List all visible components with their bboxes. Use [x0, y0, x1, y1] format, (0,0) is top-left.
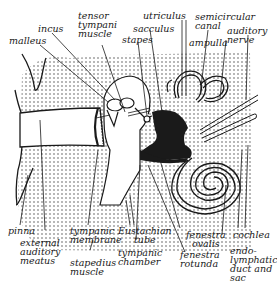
label-cochlea: cochlea	[233, 230, 270, 239]
label-fenestra-rotunda: fenestra rotunda	[180, 250, 220, 268]
label-sacculus: sacculus	[133, 24, 174, 33]
label-auditory-nerve: auditory nerve	[227, 26, 267, 44]
label-tympanic-chamber: tympanic chamber	[118, 248, 162, 266]
label-pinna: pinna	[8, 226, 35, 235]
label-external-auditory-meatus: external auditory meatus	[20, 238, 60, 265]
label-ampulla: ampulla	[189, 38, 228, 47]
label-stapedius-muscle: stapedius muscle	[70, 258, 116, 276]
ear-canal	[20, 108, 104, 147]
label-utriculus: utriculus	[143, 11, 186, 20]
label-incus: incus	[38, 24, 63, 33]
label-stapes: stapes	[122, 35, 153, 44]
label-tensor-tympani-muscle: tensor tympani muscle	[78, 11, 117, 38]
label-tympanic-membrane: tympanic membrane	[70, 226, 122, 244]
label-fenestra-ovalis: fenestra ovalis	[186, 230, 226, 248]
label-eustachian-tube: Eustachian tube	[118, 226, 172, 244]
label-endolymphatic-duct-and-sac: endo- lymphatic duct and sac	[230, 246, 277, 282]
label-malleus: malleus	[9, 36, 46, 45]
